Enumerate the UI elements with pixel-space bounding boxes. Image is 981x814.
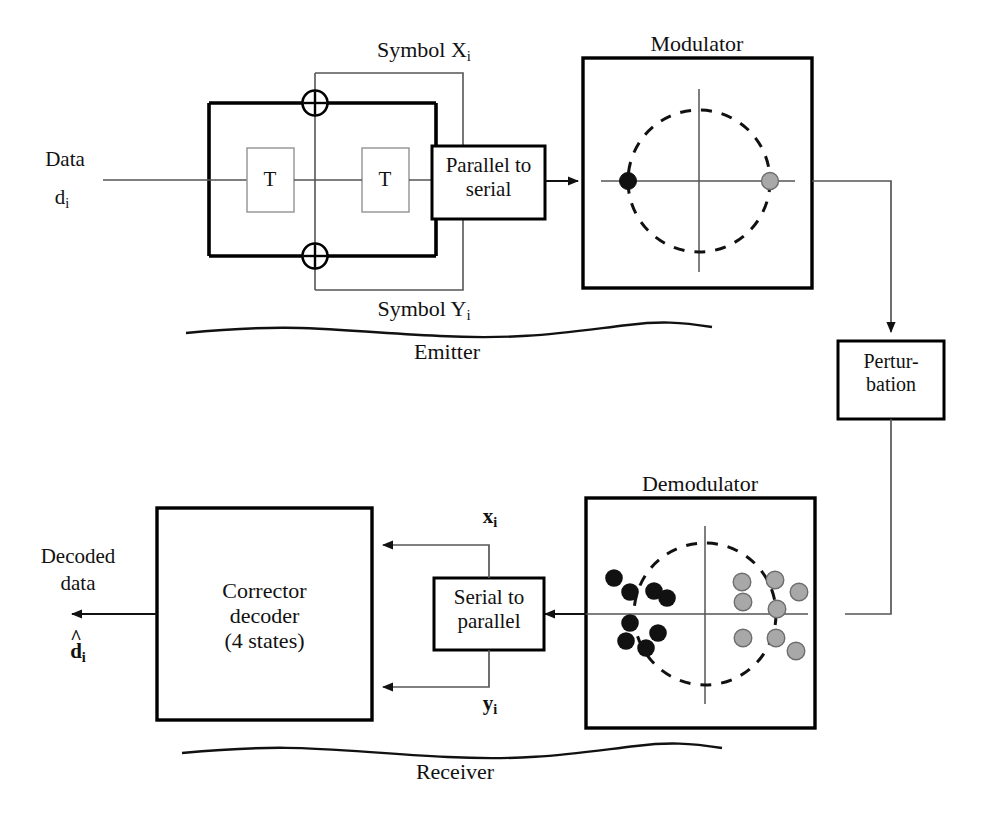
emitter-brace-label: Emitter (414, 340, 480, 364)
data-input-symbol: di (55, 186, 69, 211)
modulator-group (583, 58, 891, 332)
modulator-box (583, 58, 812, 288)
diagram-canvas: Data di T T Symbol Xi Symbol Yi Parallel… (0, 0, 981, 814)
soft-output-y-label: yi (483, 692, 497, 717)
constellation-point-black (620, 173, 637, 190)
soft-output-y-route (383, 650, 489, 687)
symbol-y-label: Symbol Yi (377, 297, 470, 323)
serial-to-parallel-label: Serial to parallel (434, 586, 544, 634)
demodulator-title: Demodulator (642, 472, 758, 496)
symbol-x-label: Symbol Xi (377, 38, 471, 64)
perturbation-to-demodulator-route (845, 419, 891, 614)
receiver-brace-label: Receiver (416, 760, 494, 784)
delay-label-2: T (379, 168, 392, 191)
demodulator-group (545, 498, 815, 728)
soft-output-x-label: xi (483, 505, 497, 530)
decoded-data-label-line1: Decoded (41, 545, 116, 568)
soft-output-x-route (383, 545, 489, 578)
data-input-label: Data (45, 148, 85, 171)
delay-label-1: T (264, 168, 277, 191)
parallel-to-serial-label: Parallel to serial (432, 154, 545, 202)
corrector-decoder-label: Corrector decoder (4 states) (157, 578, 372, 653)
emitter-brace (186, 323, 712, 338)
decoded-data-symbol: di (70, 640, 86, 665)
constellation-point-gray (762, 173, 779, 190)
modulator-title: Modulator (651, 32, 744, 56)
receiver-brace (182, 744, 722, 759)
modulator-to-perturbation-route (812, 181, 891, 332)
decoded-data-label-line2: data (61, 572, 96, 595)
perturbation-label: Pertur- bation (838, 350, 944, 396)
